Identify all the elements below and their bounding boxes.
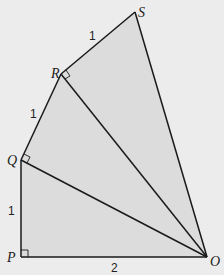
length-label-PO: 2	[111, 261, 118, 275]
vertex-label-Q: Q	[7, 153, 17, 168]
length-label-RS: 1	[89, 29, 96, 43]
shaded-region	[21, 12, 207, 257]
diagram-canvas: S R Q P O 1 1 1 2	[0, 0, 224, 275]
length-label-PQ: 1	[8, 204, 15, 218]
length-label-QR: 1	[30, 107, 37, 121]
vertex-label-R: R	[50, 66, 60, 81]
vertex-label-O: O	[210, 254, 220, 269]
spiral-triangles-figure: S R Q P O 1 1 1 2	[0, 0, 224, 275]
vertex-label-S: S	[138, 5, 145, 20]
vertex-label-P: P	[6, 250, 16, 265]
